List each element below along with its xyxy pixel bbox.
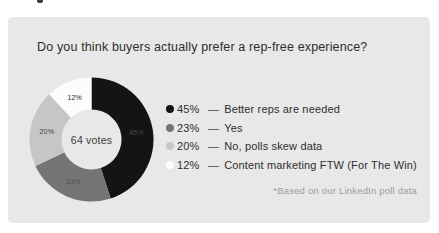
legend-dot <box>166 124 174 132</box>
legend-dot <box>166 161 174 169</box>
donut-center-label: 64 votes <box>28 76 155 203</box>
slice-label: 45% <box>129 129 144 136</box>
screenshot-root: { "card": { "background": "#e9e8e8" }, "… <box>0 0 439 233</box>
legend-percent: 45% <box>177 103 204 115</box>
footnote: *Based on our LinkedIn poll data <box>273 185 417 196</box>
legend-percent: 20% <box>177 140 204 152</box>
legend-dot <box>166 142 174 150</box>
legend-percent: 12% <box>177 159 204 171</box>
legend-row: 23%—Yes <box>166 119 417 138</box>
legend-separator: — <box>208 159 219 171</box>
donut-chart: 64 votes 45%23%20%12% <box>28 76 155 203</box>
legend-label: Better reps are needed <box>224 103 340 115</box>
legend-row: 12%—Content marketing FTW (For The Win) <box>166 156 417 175</box>
chart-title: Do you think buyers actually prefer a re… <box>37 40 367 54</box>
legend-dot <box>166 105 174 113</box>
legend-row: 45%—Better reps are needed <box>166 100 417 119</box>
legend-label: Content marketing FTW (For The Win) <box>224 159 417 171</box>
legend-label: Yes <box>224 122 242 134</box>
slice-label: 12% <box>67 94 82 101</box>
poll-result-card: Do you think buyers actually prefer a re… <box>8 17 430 223</box>
legend-separator: — <box>208 103 219 115</box>
legend-separator: — <box>208 140 219 152</box>
slice-label: 23% <box>66 178 81 185</box>
slice-label: 20% <box>39 127 54 134</box>
cropped-text-artifact <box>37 0 43 3</box>
legend-label: No, polls skew data <box>224 140 322 152</box>
legend-row: 20%—No, polls skew data <box>166 137 417 156</box>
chart-legend: 45%—Better reps are needed23%—Yes20%—No,… <box>166 100 417 174</box>
legend-separator: — <box>208 122 219 134</box>
legend-percent: 23% <box>177 122 204 134</box>
